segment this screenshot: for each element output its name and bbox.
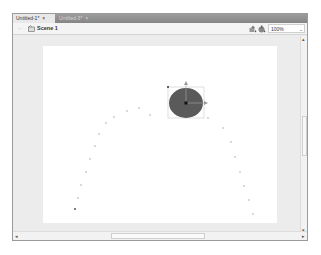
close-icon[interactable]: × (85, 15, 88, 21)
vertical-scroll-thumb[interactable] (302, 116, 307, 156)
horizontal-scroll-thumb[interactable] (111, 233, 205, 239)
close-icon[interactable]: × (42, 15, 45, 21)
motion-path-dot (149, 114, 150, 115)
edit-scenes-icon[interactable] (258, 25, 266, 33)
edit-bar: ← Scene 1 100% ⌄ (13, 23, 307, 35)
document-window: Untitled-1*× Untitled-3*× ← Scene 1 100%… (12, 13, 308, 241)
motion-path-dot (239, 171, 240, 172)
motion-path-dot (230, 141, 231, 142)
vertical-scrollbar[interactable]: ▴ ▾ (300, 36, 307, 233)
motion-path-dots (74, 107, 263, 223)
motion-path-dot (80, 184, 81, 185)
motion-path-dot (243, 185, 244, 186)
scene-label[interactable]: Scene 1 (37, 25, 58, 31)
tab-label: Untitled-3* (59, 15, 82, 21)
motion-path-dot (222, 127, 223, 128)
motion-path-dot (105, 122, 106, 123)
pasteboard (13, 36, 301, 233)
up-arrow-handle-icon[interactable] (184, 81, 188, 85)
chevron-down-icon: ⌄ (299, 25, 303, 33)
motion-path-dot (126, 110, 127, 111)
motion-path-dot (89, 158, 90, 159)
horizontal-scrollbar[interactable]: ◂ ▸ (13, 231, 307, 240)
scene-icon (28, 25, 35, 32)
scroll-up-icon[interactable]: ▴ (302, 36, 305, 42)
stage-canvas (43, 46, 277, 223)
back-arrow-icon[interactable]: ← (17, 25, 23, 31)
transform-point[interactable] (185, 102, 188, 105)
tab-label: Untitled-1* (16, 15, 39, 21)
motion-path-dot (113, 116, 114, 117)
motion-path-dot (74, 208, 76, 210)
zoom-value: 100% (271, 26, 284, 32)
scroll-right-icon[interactable]: ▸ (302, 233, 305, 239)
stage[interactable] (43, 46, 277, 223)
motion-path-dot (234, 156, 235, 157)
motion-path-dot (98, 133, 99, 134)
edit-symbols-icon[interactable] (249, 25, 257, 33)
motion-path-dot (85, 171, 86, 172)
tab-untitled-3[interactable]: Untitled-3*× (56, 14, 96, 23)
right-arrow-handle-icon[interactable] (204, 101, 208, 105)
motion-path-dot (77, 197, 78, 198)
motion-path-dot (248, 199, 249, 200)
motion-path-dot (252, 213, 253, 214)
motion-path-dot (138, 107, 139, 108)
tab-bar: Untitled-1*× Untitled-3*× (13, 14, 307, 23)
motion-path-dot (207, 117, 208, 118)
scroll-left-icon[interactable]: ◂ (15, 233, 18, 239)
zoom-dropdown[interactable]: 100% ⌄ (268, 24, 305, 33)
registration-point[interactable] (167, 86, 169, 88)
motion-path-dot (94, 145, 95, 146)
tab-untitled-1[interactable]: Untitled-1*× (13, 14, 55, 23)
